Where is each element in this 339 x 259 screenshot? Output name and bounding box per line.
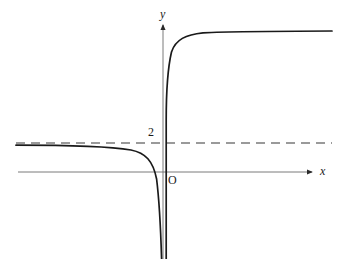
- x-axis-label: x: [320, 165, 325, 177]
- asymptote-value-label: 2: [148, 126, 154, 138]
- y-axis-label: y: [160, 8, 165, 20]
- hyperbola-figure: y x 2 O: [0, 0, 339, 259]
- plot-canvas: [0, 0, 339, 259]
- hyperbola-upper-branch: [166, 31, 332, 259]
- origin-label: O: [168, 174, 177, 186]
- hyperbola-lower-branch: [16, 145, 162, 259]
